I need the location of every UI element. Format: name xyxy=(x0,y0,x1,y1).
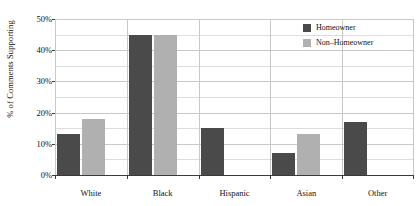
y-tick-label-10: 10% xyxy=(2,139,52,149)
x-axis-line xyxy=(55,175,414,176)
bar-asian-homeowner xyxy=(272,153,295,175)
bar-white-nonhomeowner xyxy=(82,119,105,175)
bar-black-nonhomeowner xyxy=(154,35,177,175)
x-tickmark xyxy=(342,175,343,179)
y-tick-label-0: 0% xyxy=(2,170,52,180)
bar-other-homeowner xyxy=(344,122,367,175)
x-tickmark xyxy=(127,175,128,179)
legend: Homeowner Non–Homeowner xyxy=(303,20,373,50)
x-tickmark xyxy=(413,175,414,179)
x-tick-label-asian: Asian xyxy=(296,188,316,198)
bar-hispanic-homeowner xyxy=(201,128,224,175)
x-tick-label-white: White xyxy=(81,188,102,198)
bar-black-homeowner xyxy=(129,35,152,175)
legend-swatch-homeowner-icon xyxy=(303,24,311,32)
x-tickmark xyxy=(55,175,56,179)
y-tick-label-20: 20% xyxy=(2,108,52,118)
y-tick-label-30: 30% xyxy=(2,76,52,86)
x-tickmark xyxy=(199,175,200,179)
bar-chart: % of Comments Supporting 50% 40% 30% 20%… xyxy=(0,0,419,206)
y-tick-label-40: 40% xyxy=(2,45,52,55)
y-axis-tick-labels: 50% 40% 30% 20% 10% 0% xyxy=(0,0,52,206)
x-tickmark xyxy=(270,175,271,179)
bar-asian-nonhomeowner xyxy=(297,134,320,175)
bar-white-homeowner xyxy=(57,134,80,175)
y-tick-label-50: 50% xyxy=(2,14,52,24)
legend-item-nonhomeowner: Non–Homeowner xyxy=(303,35,373,50)
legend-swatch-nonhomeowner-icon xyxy=(303,39,311,47)
legend-item-homeowner: Homeowner xyxy=(303,20,373,35)
x-tick-label-black: Black xyxy=(153,188,173,198)
x-tick-label-hispanic: Hispanic xyxy=(219,188,249,198)
legend-label-nonhomeowner: Non–Homeowner xyxy=(316,39,373,47)
x-tick-label-other: Other xyxy=(368,188,387,198)
legend-label-homeowner: Homeowner xyxy=(316,24,356,32)
